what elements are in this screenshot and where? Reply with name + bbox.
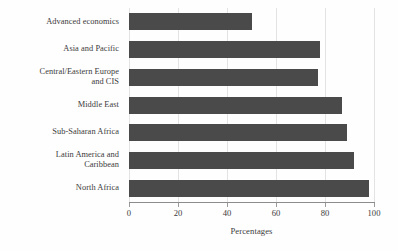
x-tick [129,203,130,207]
category-label-slot: Asia and Pacific [0,36,124,64]
bar [129,13,252,30]
bar-slot [129,119,374,147]
category-axis-labels: Advanced economicsAsia and PacificCentra… [0,8,124,202]
bar [129,97,342,114]
category-label: Advanced economics [46,17,119,28]
bar [129,69,318,86]
category-label-slot: Middle East [0,91,124,119]
x-tick-label: 0 [127,208,131,218]
bar [129,180,369,197]
bar [129,41,320,58]
bar-series [129,8,374,202]
category-label: Latin America and Caribbean [56,150,119,171]
x-tick [178,203,179,207]
x-tick [276,203,277,207]
category-label-slot: North Africa [0,174,124,202]
bar-slot [129,63,374,91]
x-tick-label: 80 [321,208,330,218]
x-tick-label: 40 [223,208,232,218]
x-tick [227,203,228,207]
category-label: Sub-Saharan Africa [52,127,119,138]
x-axis-title: Percentages [129,226,374,236]
x-tick-label: 20 [174,208,183,218]
bar-slot [129,36,374,64]
bar-slot [129,147,374,175]
x-axis-ticks [129,203,374,207]
category-label-slot: Latin America and Caribbean [0,147,124,175]
gridline [374,8,375,202]
category-label: Asia and Pacific [63,44,119,55]
x-axis-tick-labels: 020406080100 [129,208,374,222]
bar [129,124,347,141]
x-tick-label: 100 [368,208,381,218]
bar-slot [129,8,374,36]
bar-chart: Advanced economicsAsia and PacificCentra… [0,0,398,251]
category-label-slot: Central/Eastern Europe and CIS [0,63,124,91]
bar-slot [129,174,374,202]
category-label: Central/Eastern Europe and CIS [40,67,119,88]
bar [129,152,354,169]
category-label: North Africa [76,183,119,194]
x-tick [374,203,375,207]
category-label-slot: Advanced economics [0,8,124,36]
bar-slot [129,91,374,119]
x-tick [325,203,326,207]
category-label-slot: Sub-Saharan Africa [0,119,124,147]
plot-area [129,8,374,202]
x-tick-label: 60 [272,208,281,218]
category-label: Middle East [78,100,119,111]
